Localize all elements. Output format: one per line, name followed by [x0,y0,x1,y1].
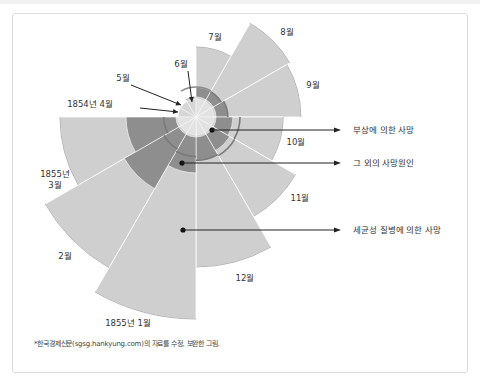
arrowhead-icon [334,127,341,132]
source-footnote: *한국경제신문(sgsg.hankyung.com)의 자료를 수정, 보완한 … [34,338,220,348]
month-label: 3월 [48,180,61,190]
month-label: 6월 [174,59,187,69]
month-label: 1855년 1월 [105,318,151,328]
rose-diagram: 1854년 4월5월6월7월8월9월10월11월12월1855년 1월2월185… [0,0,480,387]
arrowhead-icon [334,227,341,232]
month-label: 9월 [306,80,319,90]
annotation-label: 그 외의 사망원인 [353,158,414,168]
month-label: 10월 [287,137,306,147]
pointer-arrow [140,108,178,112]
month-label: 11월 [291,193,310,203]
arrowhead-icon [334,160,341,165]
month-label: 1855년 [40,169,70,179]
month-label: 7월 [208,32,221,42]
month-label: 8월 [280,27,293,37]
annotation-label: 세균성 질병에 의한 사망 [353,225,441,235]
month-label: 5월 [116,73,129,83]
pointer-arrow [131,85,181,105]
month-label: 12월 [236,273,255,283]
annotation-label: 부상에 의한 사망 [353,125,414,135]
month-label: 2월 [58,251,71,261]
wedges-layer [45,23,301,319]
month-label: 1854년 4월 [67,99,113,109]
